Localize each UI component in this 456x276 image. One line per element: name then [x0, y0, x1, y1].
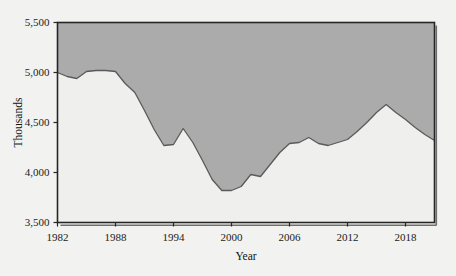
- x-tick-label: 1988: [105, 231, 128, 243]
- x-axis-title: Year: [235, 250, 256, 262]
- y-tick-label: 4,500: [25, 116, 50, 128]
- x-tick-label: 1994: [163, 231, 186, 243]
- x-tick-label: 1982: [47, 231, 69, 243]
- x-tick-label: 2018: [395, 231, 418, 243]
- y-tick-label: 5,000: [25, 66, 50, 78]
- area-chart: 3,5004,0004,5005,0005,500 19821988199420…: [0, 0, 456, 276]
- y-tick-label: 4,000: [25, 166, 50, 178]
- y-axis-title: Thousands: [12, 97, 24, 147]
- x-tick-label: 2006: [279, 231, 302, 243]
- y-tick-label: 5,500: [25, 16, 50, 28]
- chart-figure: 3,5004,0004,5005,0005,500 19821988199420…: [0, 0, 456, 276]
- x-tick-label: 2000: [221, 231, 244, 243]
- y-tick-label: 3,500: [25, 216, 50, 228]
- x-tick-label: 2012: [337, 231, 359, 243]
